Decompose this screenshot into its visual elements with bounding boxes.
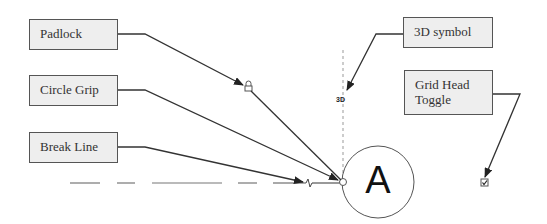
- callout-break-line: Break Line: [29, 132, 118, 163]
- padlock-leader: [117, 34, 243, 85]
- callout-circle-grip-label: Circle Grip: [40, 82, 99, 97]
- padlock-icon[interactable]: [245, 81, 252, 91]
- callout-padlock-label: Padlock: [40, 26, 82, 41]
- break-line-icon[interactable]: [306, 179, 312, 187]
- break-line-leader: [117, 147, 303, 182]
- grid-bubble-label: A: [342, 159, 414, 202]
- padlock-to-grip-line: [251, 91, 341, 180]
- symbol-3d-icon[interactable]: 3D: [336, 96, 345, 103]
- grid-head-toggle-checkbox[interactable]: [481, 179, 488, 186]
- callout-grid-head-toggle: Grid Head Toggle: [404, 70, 493, 115]
- callout-break-line-label: Break Line: [40, 139, 98, 154]
- callout-grid-head-toggle-label: Grid Head Toggle: [415, 77, 470, 107]
- callout-circle-grip: Circle Grip: [29, 75, 118, 106]
- callout-3d-symbol-label: 3D symbol: [414, 24, 471, 39]
- callout-3d-symbol: 3D symbol: [403, 17, 493, 48]
- symbol-3d-leader: [347, 34, 403, 90]
- circle-grip-leader: [117, 90, 338, 180]
- callout-padlock: Padlock: [29, 19, 118, 50]
